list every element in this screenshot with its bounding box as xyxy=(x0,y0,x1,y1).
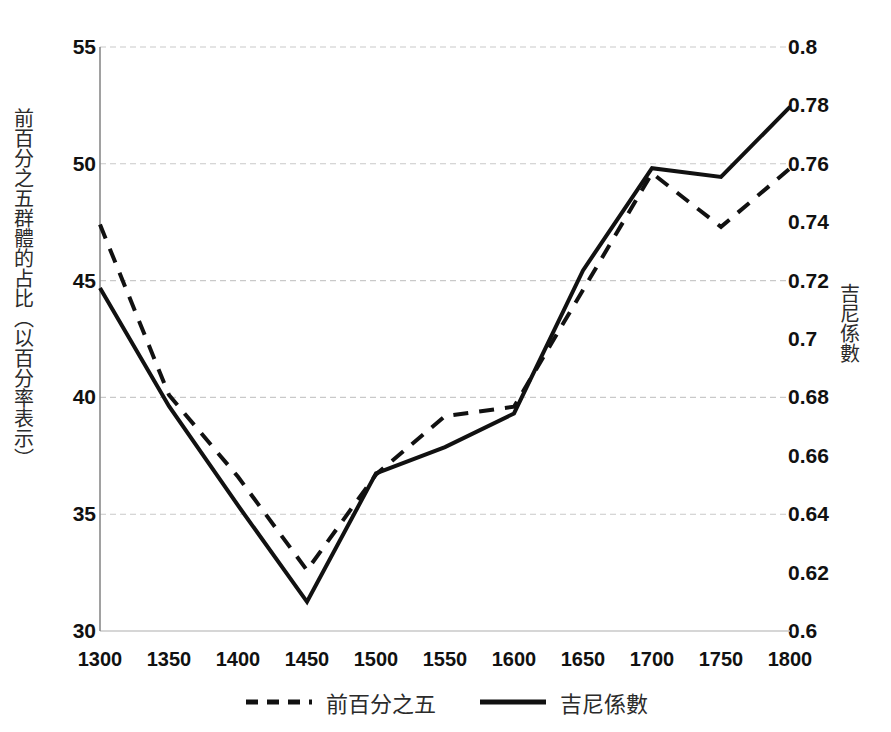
dashed-line-icon xyxy=(244,695,314,709)
series-line-0 xyxy=(100,168,790,570)
legend-item-1[interactable]: 吉尼係數 xyxy=(478,686,648,718)
gridlines xyxy=(100,47,790,631)
legend-item-0[interactable]: 前百分之五 xyxy=(244,686,436,718)
chart-page: 前百分之五群體的占比（以百分率表示） 吉尼係數 303540455055 0.6… xyxy=(0,0,891,732)
plot-area xyxy=(0,0,891,732)
data-series-group xyxy=(100,107,790,602)
legend-label: 前百分之五 xyxy=(326,686,436,718)
solid-line-icon xyxy=(478,695,548,709)
legend-label: 吉尼係數 xyxy=(560,686,648,718)
chart-legend: 前百分之五吉尼係數 xyxy=(0,686,891,718)
series-line-1 xyxy=(100,107,790,602)
